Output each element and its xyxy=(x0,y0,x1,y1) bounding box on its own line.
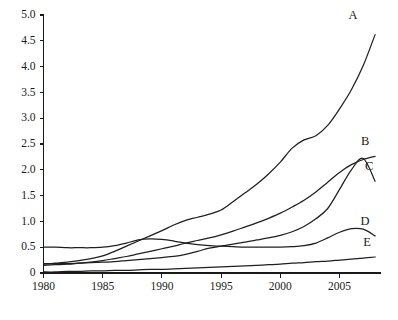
y-tick-label: 4.5 xyxy=(21,34,36,46)
series-labels: ABCDE xyxy=(349,8,374,248)
x-tick-label: 1990 xyxy=(150,280,173,292)
y-tick-label: 3.5 xyxy=(21,86,36,98)
y-tick-label: 2.0 xyxy=(21,163,36,175)
y-tick-label: 5.0 xyxy=(21,8,36,20)
x-tick-label: 2005 xyxy=(328,280,351,292)
y-tick-label: 1.5 xyxy=(21,189,36,201)
series-label-b: B xyxy=(361,134,369,148)
x-tick-label: 1980 xyxy=(32,280,55,292)
figure-container: 00.51.01.52.02.53.03.54.04.55.0 19801985… xyxy=(0,0,398,320)
series-label-e: E xyxy=(363,235,371,249)
series-lines xyxy=(44,35,376,272)
y-tick-label: 0.5 xyxy=(21,240,36,252)
x-tick-label: 2000 xyxy=(269,280,292,292)
y-axis: 00.51.01.52.02.53.03.54.04.55.0 xyxy=(21,8,43,278)
series-label-d: D xyxy=(361,214,370,228)
y-tick-label: 1.0 xyxy=(21,215,36,227)
y-tick-label: 4.0 xyxy=(21,60,36,72)
x-axis: 198019851990199520002005 xyxy=(32,273,381,292)
x-tick-label: 1995 xyxy=(210,280,233,292)
line-chart: 00.51.01.52.02.53.03.54.04.55.0 19801985… xyxy=(0,0,398,320)
x-tick-label: 1985 xyxy=(91,280,114,292)
series-label-c: C xyxy=(365,159,373,173)
series-line-a xyxy=(44,35,376,265)
y-tick-label: 3.0 xyxy=(21,111,36,123)
series-line-e xyxy=(44,257,376,272)
y-tick-label: 0 xyxy=(30,266,36,278)
y-tick-label: 2.5 xyxy=(21,137,36,149)
series-label-a: A xyxy=(349,8,358,22)
